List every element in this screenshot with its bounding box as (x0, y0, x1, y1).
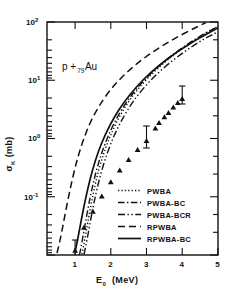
curve-pwba-bc (80, 27, 219, 255)
y-axis-sigma: σ (4, 165, 14, 172)
svg-text:p +79Au: p +79Au (62, 61, 97, 74)
data-point (90, 209, 96, 214)
legend-item-rpwba[interactable]: RPWBA (118, 223, 177, 232)
legend: PWBA PWBA-BC PWBA-BCR RPWBA RPWBA-BC (118, 187, 191, 244)
data-point (156, 120, 162, 125)
data-point (99, 193, 105, 198)
x-tick-label: 1 (73, 260, 78, 269)
y-tick-label: 100 (28, 133, 41, 143)
data-point (166, 110, 172, 115)
plot-annotation: p +79Au (62, 61, 97, 74)
figure-container: 102 101 100 10-1 1 2 3 4 5 (0, 0, 234, 305)
x-tick-labels: 1 2 3 4 5 (73, 260, 221, 269)
x-axis-subscript: 0 (102, 281, 106, 287)
curve-pwba-bcr (84, 32, 218, 255)
y-axis-subscript: K (10, 160, 16, 165)
legend-label-pwba-bcr: PWBA-BCR (147, 211, 191, 220)
data-point (153, 126, 159, 131)
x-tick-label: 5 (215, 260, 220, 269)
error-bar (143, 126, 150, 148)
y-axis-ticks (47, 22, 218, 255)
x-tick-label: 3 (144, 260, 149, 269)
x-tick-label: 2 (108, 260, 113, 269)
data-point (108, 179, 114, 184)
data-point (135, 147, 141, 152)
legend-label-pwba: PWBA (147, 187, 171, 196)
error-bar (179, 86, 186, 104)
y-tick-labels: 102 101 100 10-1 (24, 17, 41, 202)
y-tick-label: 10-1 (24, 192, 39, 202)
data-point (162, 114, 168, 119)
legend-item-pwba-bc[interactable]: PWBA-BC (118, 199, 186, 208)
legend-label-rpwba-bc: RPWBA-BC (147, 235, 191, 244)
y-axis-unit: (mb) (4, 136, 14, 157)
annotation-element: Au (85, 61, 97, 72)
y-tick-label: 102 (26, 17, 39, 27)
legend-item-rpwba-bc[interactable]: RPWBA-BC (118, 235, 191, 244)
legend-label-rpwba: RPWBA (147, 223, 177, 232)
plot-frame (47, 22, 218, 255)
y-tick-label: 101 (28, 75, 41, 85)
chart-canvas: 102 101 100 10-1 1 2 3 4 5 (0, 0, 234, 305)
data-point (81, 225, 87, 230)
x-tick-label: 4 (180, 260, 185, 269)
data-point (170, 105, 176, 110)
data-curves (57, 23, 218, 255)
x-axis-title: E0 (MeV) (96, 275, 138, 287)
legend-label-pwba-bc: PWBA-BC (147, 199, 186, 208)
data-point (126, 157, 132, 162)
annotation-text: p + (62, 61, 76, 72)
x-axis-unit: (MeV) (112, 275, 139, 285)
annotation-subscript: 79 (77, 67, 85, 74)
legend-item-pwba-bcr[interactable]: PWBA-BCR (118, 211, 191, 220)
legend-item-pwba[interactable]: PWBA (118, 187, 171, 196)
data-point (117, 167, 123, 172)
y-axis-title: σK (mb) (4, 122, 16, 186)
